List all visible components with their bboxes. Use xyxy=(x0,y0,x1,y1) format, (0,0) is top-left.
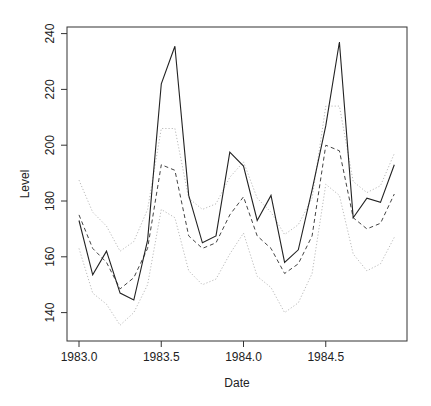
y-tick-label: 220 xyxy=(43,79,57,99)
y-axis-title: Level xyxy=(18,170,32,199)
series-upper-bound xyxy=(79,106,394,251)
x-tick-label: 1983.5 xyxy=(143,350,180,364)
time-series-chart: 1983.01983.51984.01984.5 140160180200220… xyxy=(0,0,431,406)
y-tick-label: 160 xyxy=(43,246,57,266)
plot-frame xyxy=(67,27,407,341)
series-fitted xyxy=(79,145,394,289)
y-axis: 140160180200220240 xyxy=(43,23,67,322)
x-tick-label: 1984.0 xyxy=(225,350,262,364)
y-tick-label: 240 xyxy=(43,23,57,43)
series-observed xyxy=(79,42,394,300)
x-axis: 1983.01983.51984.01984.5 xyxy=(61,341,345,364)
series-layer xyxy=(79,42,394,325)
x-tick-label: 1984.5 xyxy=(307,350,344,364)
x-axis-title: Date xyxy=(224,376,250,390)
x-tick-label: 1983.0 xyxy=(61,350,98,364)
y-tick-label: 140 xyxy=(43,302,57,322)
y-tick-label: 200 xyxy=(43,135,57,155)
y-tick-label: 180 xyxy=(43,191,57,211)
